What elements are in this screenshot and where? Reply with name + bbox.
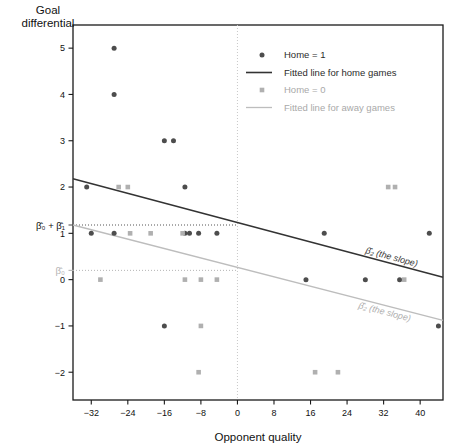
y-tick-label: 3 (60, 136, 65, 146)
x-tick-label: 24 (342, 408, 352, 418)
data-point-home (162, 323, 167, 328)
data-point-home (171, 138, 176, 143)
x-tick-label: 16 (306, 408, 316, 418)
data-point-home (89, 231, 94, 236)
data-point-away (98, 277, 103, 282)
data-point-home (112, 92, 117, 97)
legend-marker-away (260, 88, 265, 93)
x-tick-label: 32 (379, 408, 389, 418)
data-point-home (112, 231, 117, 236)
chart-canvas: −32−24−16−80816243240543210−1−2β̂₀ + β̂₁… (0, 0, 453, 448)
data-point-home (214, 231, 219, 236)
x-tick-label: −24 (120, 408, 135, 418)
data-point-home (112, 46, 117, 51)
legend-label-1: Fitted line for home games (284, 67, 397, 78)
data-point-away (116, 185, 121, 190)
legend-marker-home (260, 53, 265, 58)
y-tick-label: 0 (60, 275, 65, 285)
data-point-home (397, 277, 402, 282)
legend-label-0: Home = 1 (284, 49, 325, 60)
data-point-home (436, 323, 441, 328)
data-point-away (196, 370, 201, 375)
x-tick-label: 0 (235, 408, 240, 418)
data-point-away (386, 185, 391, 190)
data-point-away (199, 277, 204, 282)
data-point-home (182, 185, 187, 190)
y-axis-title-line2: differential (22, 17, 75, 29)
data-point-home (187, 231, 192, 236)
y-axis-label-beta0: β̂₀ (56, 265, 65, 276)
data-point-away (199, 324, 204, 329)
data-point-away (402, 277, 407, 282)
data-point-home (84, 185, 89, 190)
data-point-home (196, 231, 201, 236)
plot-frame (73, 25, 443, 400)
legend-label-3: Fitted line for away games (284, 102, 395, 113)
data-point-home (363, 277, 368, 282)
data-point-away (180, 231, 185, 236)
y-axis-label-beta0-plus-beta1: β̂₀ + β̂₁ (36, 220, 65, 231)
y-tick-label: −2 (55, 368, 65, 378)
data-point-away (126, 185, 131, 190)
data-point-away (336, 370, 341, 375)
y-tick-label: 5 (60, 43, 65, 53)
legend-label-2: Home = 0 (284, 84, 325, 95)
y-tick-label: −1 (55, 321, 65, 331)
data-point-home (162, 138, 167, 143)
data-point-home (427, 231, 432, 236)
data-point-away (148, 231, 153, 236)
x-tick-label: −32 (84, 408, 99, 418)
x-tick-label: −8 (196, 408, 206, 418)
data-point-home (303, 277, 308, 282)
data-point-away (128, 231, 133, 236)
scatter-plot: −32−24−16−80816243240543210−1−2β̂₀ + β̂₁… (0, 0, 453, 448)
x-tick-label: 8 (271, 408, 276, 418)
y-tick-label: 4 (60, 90, 65, 100)
data-point-away (393, 185, 398, 190)
data-point-away (313, 370, 318, 375)
x-tick-label: 40 (415, 408, 425, 418)
x-tick-label: −16 (157, 408, 172, 418)
x-axis-title: Opponent quality (215, 431, 302, 443)
y-axis-title-line1: Goal (36, 4, 60, 16)
data-point-away (215, 277, 220, 282)
data-point-away (183, 277, 188, 282)
y-tick-label: 2 (60, 182, 65, 192)
data-point-home (322, 231, 327, 236)
